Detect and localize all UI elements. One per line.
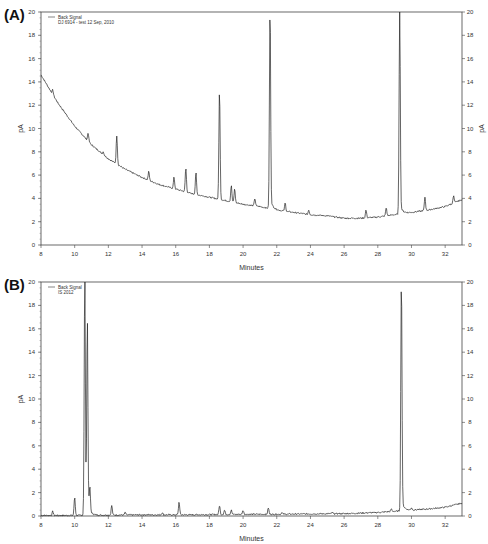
y-tick-label: 16 xyxy=(28,326,35,332)
y-tick-label: 2 xyxy=(32,490,36,496)
x-tick-label: 14 xyxy=(139,251,146,257)
x-tick-label: 24 xyxy=(307,522,314,528)
x-tick-label: 18 xyxy=(206,251,213,257)
y-tick-label: 0 xyxy=(32,513,36,519)
y-tick-label-right: 10 xyxy=(467,126,474,132)
y-tick-label-right: 6 xyxy=(468,172,472,178)
signal-trace xyxy=(41,282,462,516)
x-tick-label: 26 xyxy=(341,522,348,528)
y-tick-label-right: 2 xyxy=(468,490,472,496)
chart-panel-b: (B) 002244668810101212141416161818202081… xyxy=(0,270,488,544)
chromatogram-b: 0022446688101012121414161618182020810121… xyxy=(0,270,488,544)
legend-entry: IS 2012 xyxy=(58,290,74,295)
y-tick-label-right: 4 xyxy=(468,466,472,472)
y-tick-label: 6 xyxy=(32,443,36,449)
chromatogram-a: 0022446688101012121414161618182020810121… xyxy=(0,0,488,272)
x-tick-label: 20 xyxy=(240,522,247,528)
y-tick-label: 2 xyxy=(32,219,36,225)
chart-panel-a: (A) 002244668810101212141416161818202081… xyxy=(0,0,488,272)
y-tick-label-right: 8 xyxy=(468,149,472,155)
y-tick-label: 0 xyxy=(32,242,36,248)
x-tick-label: 10 xyxy=(71,251,78,257)
x-tick-label: 12 xyxy=(105,522,112,528)
x-tick-label: 12 xyxy=(105,251,112,257)
y-tick-label: 20 xyxy=(28,9,35,15)
x-tick-label: 28 xyxy=(374,522,381,528)
x-tick-label: 16 xyxy=(172,522,179,528)
x-tick-label: 32 xyxy=(442,251,449,257)
legend-entry: Back Signal xyxy=(58,285,82,290)
y-tick-label: 12 xyxy=(28,373,35,379)
y-tick-label-right: 18 xyxy=(467,302,474,308)
x-tick-label: 18 xyxy=(206,522,213,528)
y-tick-label: 18 xyxy=(28,32,35,38)
legend-entry: Back Signal xyxy=(58,15,82,20)
y-tick-label: 14 xyxy=(28,79,35,85)
y-tick-label-right: 4 xyxy=(468,195,472,201)
y-tick-label-right: 0 xyxy=(468,242,472,248)
y-axis-label: pA xyxy=(17,394,25,403)
y-tick-label-right: 20 xyxy=(467,9,474,15)
y-axis-label-right: pA xyxy=(478,124,486,133)
signal-trace xyxy=(41,12,462,219)
y-tick-label: 14 xyxy=(28,349,35,355)
y-tick-label-right: 16 xyxy=(467,326,474,332)
x-tick-label: 24 xyxy=(307,251,314,257)
y-tick-label-right: 14 xyxy=(467,349,474,355)
y-tick-label-right: 16 xyxy=(467,56,474,62)
x-tick-label: 20 xyxy=(240,251,247,257)
x-tick-label: 28 xyxy=(374,251,381,257)
x-tick-label: 14 xyxy=(139,522,146,528)
x-tick-label: 16 xyxy=(172,251,179,257)
y-tick-label: 18 xyxy=(28,302,35,308)
x-tick-label: 30 xyxy=(408,251,415,257)
x-tick-label: 22 xyxy=(273,522,280,528)
y-tick-label-right: 12 xyxy=(467,373,474,379)
y-tick-label: 12 xyxy=(28,102,35,108)
y-axis-label: pA xyxy=(17,124,25,133)
y-tick-label-right: 20 xyxy=(467,279,474,285)
y-tick-label-right: 8 xyxy=(468,419,472,425)
y-tick-label: 4 xyxy=(32,195,36,201)
y-tick-label-right: 6 xyxy=(468,443,472,449)
x-axis-label: Minutes xyxy=(239,535,264,542)
y-tick-label: 8 xyxy=(32,149,36,155)
y-tick-label-right: 18 xyxy=(467,32,474,38)
y-tick-label-right: 2 xyxy=(468,219,472,225)
x-tick-label: 8 xyxy=(39,522,43,528)
y-tick-label: 10 xyxy=(28,396,35,402)
y-tick-label-right: 14 xyxy=(467,79,474,85)
y-tick-label-right: 10 xyxy=(467,396,474,402)
x-tick-label: 26 xyxy=(341,251,348,257)
y-tick-label: 10 xyxy=(28,126,35,132)
x-tick-label: 8 xyxy=(39,251,43,257)
y-tick-label-right: 12 xyxy=(467,102,474,108)
y-tick-label: 16 xyxy=(28,56,35,62)
plot-frame xyxy=(41,282,462,516)
x-tick-label: 32 xyxy=(442,522,449,528)
y-tick-label: 8 xyxy=(32,419,36,425)
legend-entry: DJ 6914 - test 12 Sep, 2010 xyxy=(58,20,115,25)
y-tick-label: 20 xyxy=(28,279,35,285)
x-tick-label: 10 xyxy=(71,522,78,528)
y-tick-label: 4 xyxy=(32,466,36,472)
x-tick-label: 30 xyxy=(408,522,415,528)
y-tick-label-right: 0 xyxy=(468,513,472,519)
x-tick-label: 22 xyxy=(273,251,280,257)
y-tick-label: 6 xyxy=(32,172,36,178)
